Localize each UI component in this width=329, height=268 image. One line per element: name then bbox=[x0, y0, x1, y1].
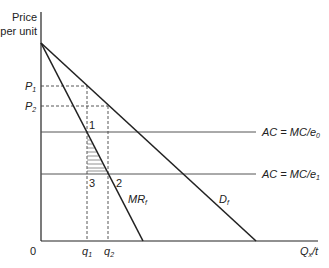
q2-label: q2 bbox=[104, 245, 114, 258]
demand-label: Df bbox=[219, 193, 230, 206]
mr-curve bbox=[41, 43, 143, 241]
y-axis-label: Price bbox=[12, 11, 37, 23]
p2-label: P2 bbox=[25, 100, 36, 113]
q1-label: q1 bbox=[82, 245, 92, 258]
origin-label: 0 bbox=[30, 245, 36, 257]
monopoly-cost-diagram: Price per unit 0 P1 P2 q1 q2 Qx/t 1 2 3 … bbox=[0, 0, 329, 268]
point-2-label: 2 bbox=[116, 177, 122, 189]
ac-e0-label: AC = MC/e0 bbox=[261, 126, 320, 139]
point-1-label: 1 bbox=[89, 119, 95, 131]
hatched-area bbox=[87, 136, 106, 171]
demand-curve bbox=[41, 43, 256, 241]
x-axis-label: Qx/t bbox=[300, 245, 319, 258]
mr-label: MRf bbox=[128, 193, 148, 206]
y-axis-label-2: per unit bbox=[0, 25, 37, 37]
point-3-label: 3 bbox=[89, 177, 95, 189]
ac-e1-label: AC = MC/e1 bbox=[261, 168, 320, 181]
p1-label: P1 bbox=[25, 80, 36, 93]
